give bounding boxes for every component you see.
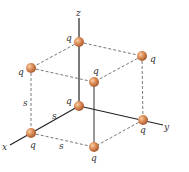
charge-label-top-front: q xyxy=(93,66,99,76)
charge-sphere-top-left xyxy=(26,63,36,73)
cube-charge-diagram: z x y q q q q q q q q s s s xyxy=(0,0,189,172)
y-axis xyxy=(79,106,163,125)
charge-label-origin: q xyxy=(66,96,72,106)
edge-vertical-right xyxy=(142,56,143,120)
charge-sphere-y-corner xyxy=(138,115,148,125)
x-axis-label: x xyxy=(2,142,7,152)
charge-sphere-top-front xyxy=(89,77,99,87)
side-label-bottom-front: s xyxy=(59,141,64,151)
edge-bottom-front-right xyxy=(94,120,143,147)
charge-label-top-right: q xyxy=(150,54,156,64)
x-axis xyxy=(10,106,79,145)
edge-top-back-left xyxy=(31,42,79,68)
side-label-vertical: s xyxy=(23,98,28,108)
z-axis-label: z xyxy=(75,8,81,18)
charge-label-front-bottom: q xyxy=(91,153,97,163)
charge-label-x-corner: q xyxy=(30,140,36,150)
charge-label-top-left: q xyxy=(18,67,24,77)
edge-top-front-right xyxy=(94,56,142,82)
side-label-along-x: s xyxy=(52,111,57,121)
charge-label-top-back: q xyxy=(66,33,72,43)
edge-top-back-right xyxy=(79,42,142,56)
cube-dashed-edges xyxy=(31,42,143,147)
charge-sphere-origin xyxy=(74,101,84,111)
edge-top-front-left xyxy=(31,68,94,82)
charge-label-y-corner: q xyxy=(140,125,146,135)
charge-sphere-top-back xyxy=(74,37,84,47)
y-axis-label: y xyxy=(163,122,170,132)
charges xyxy=(26,37,148,152)
charge-sphere-x-corner xyxy=(26,128,36,138)
charge-sphere-front-bottom xyxy=(89,142,99,152)
charge-sphere-top-right xyxy=(137,51,147,61)
